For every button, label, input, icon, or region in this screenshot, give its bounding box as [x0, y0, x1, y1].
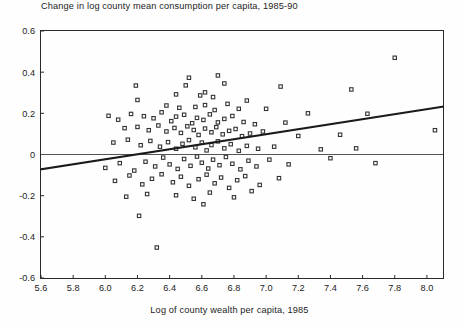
scatter-point: [227, 186, 230, 189]
scatter-point: [208, 113, 211, 116]
scatter-point: [248, 132, 251, 135]
scatter-point: [221, 133, 224, 136]
scatter-point: [207, 167, 210, 170]
scatter-point: [134, 84, 137, 87]
scatter-point: [176, 167, 179, 170]
scatter-point: [237, 107, 240, 110]
x-tick-label: 5.6: [35, 283, 48, 293]
scatter-point: [189, 164, 192, 167]
scatter-point: [150, 177, 153, 180]
x-tick-label: 6.6: [195, 283, 208, 293]
scatter-point: [139, 144, 142, 147]
scatter-point: [213, 182, 216, 185]
scatter-point: [319, 148, 322, 151]
scatter-point: [211, 158, 214, 161]
x-axis-tick-labels: 5.65.86.06.26.46.66.87.07.27.47.67.88.0: [35, 283, 434, 293]
scatter-point: [147, 129, 150, 132]
scatter-point: [202, 118, 205, 121]
scatter-point: [171, 181, 174, 184]
scatter-point: [235, 179, 238, 182]
plot-area-svg: 5.65.86.06.26.46.66.87.07.27.47.67.88.0 …: [0, 0, 459, 328]
scatter-point: [186, 125, 189, 128]
scatter-point: [338, 133, 341, 136]
scatter-point: [123, 126, 126, 129]
scatter-point: [194, 105, 197, 108]
scatter-point: [144, 160, 147, 163]
scatter-point: [125, 195, 128, 198]
scatter-point: [284, 121, 287, 124]
y-tick-label: -0.2: [19, 191, 35, 201]
scatter-point: [136, 125, 139, 128]
scatter-point: [133, 169, 136, 172]
scatter-point: [128, 174, 131, 177]
scatter-point: [157, 124, 160, 127]
scatter-point: [116, 118, 119, 121]
scatter-point: [162, 156, 165, 159]
scatter-point: [181, 142, 184, 145]
regression-fit-line: [41, 107, 443, 170]
scatter-point: [179, 131, 182, 134]
scatter-point: [160, 173, 163, 176]
scatter-point: [216, 74, 219, 77]
scatter-point: [393, 56, 396, 59]
scatter-point: [203, 91, 206, 94]
scatter-point: [195, 116, 198, 119]
scatter-point: [264, 107, 267, 110]
scatter-point: [155, 246, 158, 249]
x-tick-label: 6.0: [99, 283, 112, 293]
scatter-point: [215, 125, 218, 128]
y-tick-label: 0.4: [22, 68, 35, 78]
scatter-point: [231, 114, 234, 117]
scatter-point: [229, 143, 232, 146]
scatter-point: [256, 147, 259, 150]
scatter-point: [104, 166, 107, 169]
scatter-point: [168, 163, 171, 166]
scatter-point: [232, 196, 235, 199]
scatter-point: [258, 183, 261, 186]
scatter-point: [182, 113, 185, 116]
y-tick-label: -0.6: [19, 273, 35, 283]
y-tick-label: 0.2: [22, 109, 35, 119]
scatter-point: [219, 176, 222, 179]
scatter-point: [306, 112, 309, 115]
scatter-point: [179, 175, 182, 178]
scatter-point: [272, 145, 275, 148]
scatter-point: [227, 129, 230, 132]
scatter-point: [329, 157, 332, 160]
scatter-point: [279, 85, 282, 88]
scatter-point: [145, 192, 148, 195]
x-tick-label: 6.4: [163, 283, 176, 293]
scatter-point: [137, 214, 140, 217]
scatter-point: [178, 106, 181, 109]
scatter-point: [197, 178, 200, 181]
x-tick-label: 7.4: [324, 283, 337, 293]
scatter-chart-figure: Change in log county mean consumption pe…: [0, 0, 459, 328]
scatter-point: [223, 147, 226, 150]
scatter-point: [234, 127, 237, 130]
scatter-point: [187, 76, 190, 79]
scatter-point: [239, 168, 242, 171]
scatter-point: [223, 117, 226, 120]
scatter-point: [136, 98, 139, 101]
scatter-point: [198, 94, 201, 97]
scatter-point: [433, 129, 436, 132]
scatter-point: [174, 194, 177, 197]
scatter-point: [174, 93, 177, 96]
x-tick-label: 7.8: [388, 283, 401, 293]
scatter-point: [187, 184, 190, 187]
scatter-point: [223, 82, 226, 85]
scatter-point: [149, 139, 152, 142]
scatter-point: [170, 119, 173, 122]
scatter-point: [226, 102, 229, 105]
scatter-point: [374, 161, 377, 164]
scatter-point: [253, 123, 256, 126]
scatter-point: [250, 189, 253, 192]
scatter-point: [184, 84, 187, 87]
scatter-point: [107, 114, 110, 117]
scatter-point: [210, 131, 213, 134]
scatter-point: [142, 115, 145, 118]
scatter-point: [200, 161, 203, 164]
scatter-point: [208, 191, 211, 194]
scatter-point: [166, 140, 169, 143]
scatter-point: [205, 149, 208, 152]
